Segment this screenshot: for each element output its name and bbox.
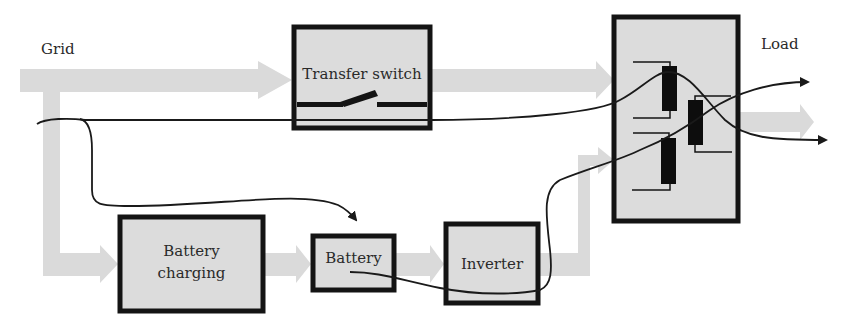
transfer-to-static-arrow [432,61,614,99]
battery-label: Battery [313,247,394,269]
grid-to-transfer-arrow [20,61,292,99]
grid-label: Grid [41,40,75,58]
charger-to-battery-arrow [265,245,311,283]
battery-to-inverter-arrow [396,245,444,283]
battery-charging-label-line2: charging [120,262,263,284]
load-label: Load [761,35,799,53]
inverter-label: Inverter [446,253,538,275]
grid-to-battery-path [80,119,356,220]
ups-block-diagram: Grid Load Transfer switch Battery chargi… [0,0,852,334]
battery-charging-label: Battery charging [120,240,263,284]
transfer-switch-label: Transfer switch [296,63,428,85]
battery-charging-label-line1: Battery [120,240,263,262]
